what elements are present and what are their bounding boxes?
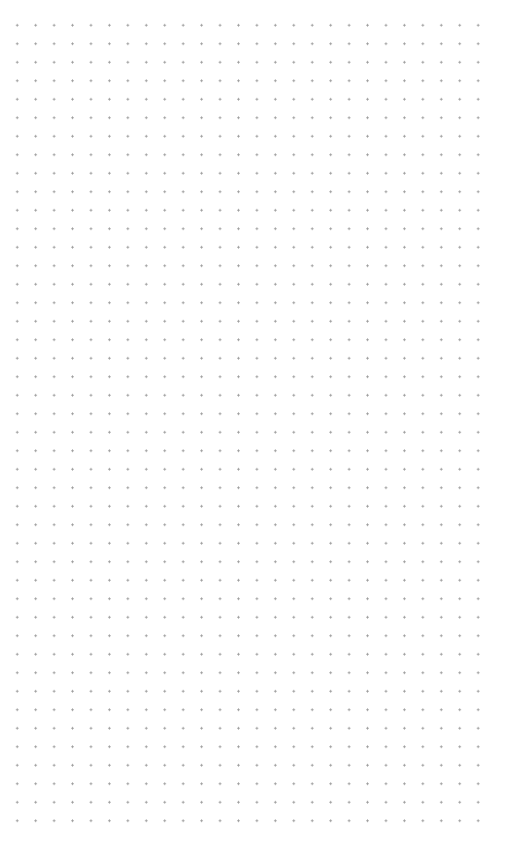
canvas[interactable] <box>0 0 510 865</box>
dot-grid-background <box>8 16 487 832</box>
